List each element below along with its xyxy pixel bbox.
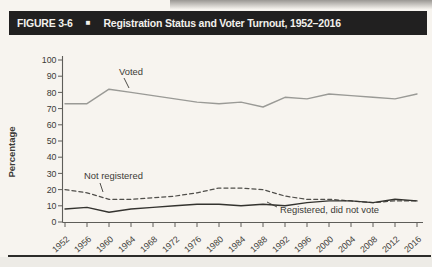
series-line-not-registered	[65, 188, 417, 203]
x-tick-label: 1976	[182, 234, 203, 255]
x-tick-label: 2008	[358, 234, 379, 255]
x-tick-label: 1972	[160, 234, 181, 255]
y-tick-label: 100	[42, 55, 57, 65]
y-tick-label: 30	[47, 169, 57, 179]
x-tick-label: 2016	[402, 234, 423, 255]
page-margin	[0, 257, 432, 267]
x-tick-label: 1968	[138, 234, 159, 255]
x-tick-label: 1960	[94, 234, 115, 255]
x-tick-label: 1956	[72, 234, 93, 255]
y-tick-label: 50	[47, 136, 57, 146]
y-tick-label: 10	[47, 201, 57, 211]
x-tick-label: 1988	[248, 234, 269, 255]
series-line-voted	[65, 89, 417, 107]
y-tick-label: 60	[47, 120, 57, 130]
x-tick-label: 2012	[380, 234, 401, 255]
x-tick-label: 2000	[314, 234, 335, 255]
x-tick-label: 2004	[336, 234, 357, 255]
x-tick-label: 1952	[50, 234, 71, 255]
x-tick-label: 1964	[116, 234, 137, 255]
annotation-label: Registered, did not vote	[280, 204, 379, 215]
y-tick-label: 90	[47, 71, 57, 81]
y-tick-label: 40	[47, 152, 57, 162]
y-tick-label: 20	[47, 185, 57, 195]
annotation-label: Voted	[119, 66, 143, 77]
y-tick-label: 70	[47, 104, 57, 114]
x-tick-label: 1992	[270, 234, 291, 255]
line-chart: 0102030405060708090100195219561960196419…	[0, 0, 432, 267]
y-axis-title: Percentage	[6, 126, 17, 177]
x-tick-label: 1980	[204, 234, 225, 255]
y-tick-label: 80	[47, 88, 57, 98]
annotation-pointer	[100, 183, 103, 192]
annotation-pointer	[124, 78, 129, 88]
annotation-label: Not registered	[84, 170, 143, 181]
x-tick-label: 1996	[292, 234, 313, 255]
y-tick-label: 0	[52, 217, 57, 227]
figure-page: FIGURE 3-6 ■ Registration Status and Vot…	[0, 0, 432, 267]
x-tick-label: 1984	[226, 234, 247, 255]
